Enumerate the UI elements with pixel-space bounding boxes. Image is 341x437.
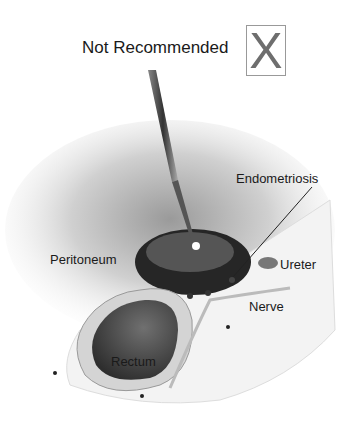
x-icon: X (249, 26, 282, 76)
label-nerve: Nerve (249, 299, 284, 314)
label-ureter: Ureter (280, 257, 316, 272)
illustration (0, 0, 341, 437)
label-peritoneum: Peritoneum (50, 252, 116, 267)
ureter (258, 257, 278, 269)
label-endometriosis: Endometriosis (236, 171, 318, 186)
label-rectum: Rectum (111, 354, 156, 369)
spark (192, 242, 200, 250)
x-mark-box: X (246, 25, 286, 76)
not-recommended-title: Not Recommended (82, 38, 228, 58)
